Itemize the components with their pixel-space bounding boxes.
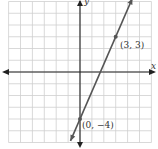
point-label-0: (0, −4) [82, 120, 114, 130]
point-label-1: (3, 3) [120, 40, 144, 50]
y-axis-arrow-up-icon [77, 0, 83, 6]
x-axis-label: x [151, 61, 156, 71]
y-axis-arrow-down-icon [77, 142, 83, 148]
x-axis-arrow-left-icon [2, 69, 9, 75]
y-axis-label: y [83, 0, 90, 6]
axes [2, 0, 156, 148]
coordinate-plane: x y (0, −4) (3, 3) [0, 0, 158, 149]
data-point-1 [114, 35, 118, 39]
